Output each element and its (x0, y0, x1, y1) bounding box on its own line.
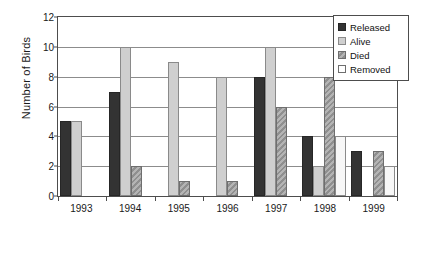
bar-group (203, 17, 251, 196)
bar-slot-removed (93, 17, 104, 196)
y-axis-tick-label: 12 (43, 12, 54, 23)
legend-label: Died (350, 50, 370, 61)
bar-alive-1997[interactable] (265, 47, 276, 196)
legend-label: Released (350, 22, 390, 33)
bar-slot-removed (238, 17, 249, 196)
bar-alive-1994[interactable] (120, 47, 131, 196)
x-axis-tick-mark (106, 196, 107, 201)
bar-died-1996[interactable] (227, 181, 238, 196)
bar-removed-1998[interactable] (335, 136, 346, 196)
bar-slot-alive (265, 17, 276, 196)
bar-group (155, 17, 203, 196)
bar-slot-alive (313, 17, 324, 196)
legend-item-alive[interactable]: Alive (338, 34, 404, 48)
bar-group (106, 17, 154, 196)
bar-died-1999[interactable] (373, 151, 384, 196)
bar-removed-1999[interactable] (384, 166, 395, 196)
y-axis-tick-label: 10 (43, 41, 54, 52)
legend-swatch-released-icon (338, 23, 346, 31)
x-axis-tick-mark (397, 196, 398, 201)
bar-slot-removed (287, 17, 298, 196)
bar-alive-1995[interactable] (168, 62, 179, 196)
bar-slot-died (179, 17, 190, 196)
x-axis-tick-mark (300, 196, 301, 201)
bar-died-1994[interactable] (131, 166, 142, 196)
bar-group (58, 17, 106, 196)
bar-slot-removed (190, 17, 201, 196)
x-axis-tick-mark (252, 196, 253, 201)
legend-swatch-died-icon (338, 51, 346, 59)
legend-label: Alive (350, 36, 371, 47)
bar-released-1997[interactable] (254, 77, 265, 196)
x-axis-label-1998: 1998 (301, 203, 350, 223)
bar-slot-alive (168, 17, 179, 196)
bar-died-1997[interactable] (276, 107, 287, 197)
bar-slot-died (82, 17, 93, 196)
bar-slot-released (205, 17, 216, 196)
x-axis-label-1997: 1997 (252, 203, 301, 223)
bar-slot-released (302, 17, 313, 196)
bar-released-1994[interactable] (109, 92, 120, 196)
bar-released-1998[interactable] (302, 136, 313, 196)
bar-released-1999[interactable] (351, 151, 362, 196)
bar-died-1995[interactable] (179, 181, 190, 196)
bar-alive-1996[interactable] (216, 77, 227, 196)
x-axis-tick-mark (349, 196, 350, 201)
x-axis-tick-mark (203, 196, 204, 201)
bar-slot-died (227, 17, 238, 196)
x-axis-label-1993: 1993 (57, 203, 106, 223)
bar-slot-died (276, 17, 287, 196)
legend-swatch-alive-icon (338, 37, 346, 45)
bar-slot-died (131, 17, 142, 196)
bar-died-1998[interactable] (324, 77, 335, 196)
bar-slot-released (254, 17, 265, 196)
x-axis-label-1999: 1999 (349, 203, 398, 223)
bar-released-1993[interactable] (60, 121, 71, 196)
bar-slot-removed (142, 17, 153, 196)
bar-slot-alive (120, 17, 131, 196)
legend-item-removed[interactable]: Removed (338, 62, 404, 76)
x-axis-labels: 1993199419951996199719981999 (57, 203, 398, 223)
bar-alive-1998[interactable] (313, 166, 324, 196)
chart-legend: ReleasedAliveDiedRemoved (333, 15, 409, 81)
bar-chart: Number of Birds 024681012 19931994199519… (0, 0, 422, 255)
x-axis-label-1994: 1994 (106, 203, 155, 223)
legend-label: Removed (350, 64, 391, 75)
x-axis-tick-mark (155, 196, 156, 201)
bar-slot-alive (216, 17, 227, 196)
x-axis-label-1996: 1996 (203, 203, 252, 223)
bar-slot-released (60, 17, 71, 196)
legend-swatch-removed-icon (338, 65, 346, 73)
bar-slot-alive (71, 17, 82, 196)
bar-slot-released (109, 17, 120, 196)
y-axis-title: Number of Birds (20, 8, 32, 148)
bar-slot-released (157, 17, 168, 196)
bar-group (252, 17, 300, 196)
legend-item-released[interactable]: Released (338, 20, 404, 34)
x-axis-label-1995: 1995 (154, 203, 203, 223)
legend-item-died[interactable]: Died (338, 48, 404, 62)
bar-alive-1993[interactable] (71, 121, 82, 196)
x-axis-tick-mark (58, 196, 59, 201)
